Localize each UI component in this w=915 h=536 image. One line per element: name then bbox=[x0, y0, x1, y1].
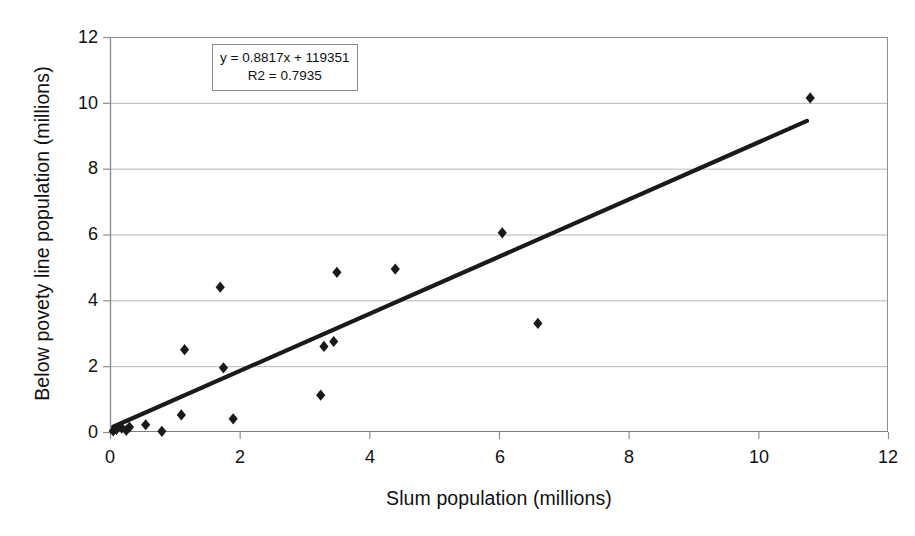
data-point-marker bbox=[533, 318, 542, 329]
trendline-equation-box: y = 0.8817x + 119351 R2 = 0.7935 bbox=[212, 44, 358, 91]
x-axis-title: Slum population (millions) bbox=[110, 487, 888, 510]
data-point-marker bbox=[157, 426, 166, 437]
data-point-marker bbox=[391, 263, 400, 274]
x-tick-label: 2 bbox=[210, 448, 270, 466]
data-point-marker bbox=[180, 344, 189, 355]
scatter-chart-figure: Below povety line population (millions) … bbox=[0, 0, 915, 536]
data-point-marker bbox=[498, 227, 507, 238]
y-tick-label: 2 bbox=[58, 357, 98, 375]
data-point-marker bbox=[216, 282, 225, 293]
x-tick-label: 0 bbox=[80, 448, 140, 466]
x-axis-tick-labels: 0 2 4 6 8 10 12 bbox=[0, 448, 915, 474]
y-tick-label: 10 bbox=[58, 94, 98, 112]
data-point-marker bbox=[141, 419, 150, 430]
y-tick-label: 6 bbox=[58, 225, 98, 243]
x-tick-label: 4 bbox=[340, 448, 400, 466]
y-tick-label: 0 bbox=[58, 423, 98, 441]
plot-area bbox=[110, 37, 888, 432]
data-point-marker bbox=[806, 92, 815, 103]
gridlines bbox=[110, 103, 888, 366]
y-tick-label: 12 bbox=[58, 28, 98, 46]
x-tick-label: 6 bbox=[470, 448, 530, 466]
trendline-r2-text: R2 = 0.7935 bbox=[220, 67, 350, 85]
trendline bbox=[113, 121, 807, 427]
y-tick-label: 4 bbox=[58, 291, 98, 309]
trendline-segment bbox=[113, 121, 807, 427]
data-point-marker bbox=[219, 362, 228, 373]
x-tick-label: 12 bbox=[858, 448, 915, 466]
trendline-equation-text: y = 0.8817x + 119351 bbox=[220, 49, 350, 67]
data-point-marker bbox=[319, 341, 328, 352]
x-tick-label: 8 bbox=[599, 448, 659, 466]
plot-svg bbox=[110, 37, 888, 432]
y-tick-label: 8 bbox=[58, 159, 98, 177]
data-points bbox=[109, 92, 815, 437]
data-point-marker bbox=[332, 267, 341, 278]
data-point-marker bbox=[229, 413, 238, 424]
data-point-marker bbox=[329, 336, 338, 347]
data-point-marker bbox=[316, 390, 325, 401]
x-tick-label: 10 bbox=[729, 448, 789, 466]
data-point-marker bbox=[177, 409, 186, 420]
